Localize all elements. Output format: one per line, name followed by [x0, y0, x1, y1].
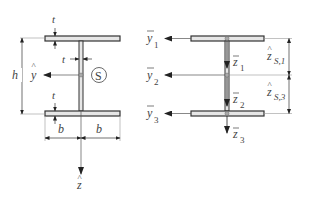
h-dimension: h [12, 38, 45, 114]
y2-axis: y 2 [146, 68, 225, 87]
b-dimensions: b b [45, 116, 120, 141]
z-hat-accent: ^ [78, 173, 83, 183]
z3-label: z [232, 127, 238, 141]
zs1-subscript: S,1 [274, 56, 285, 66]
z2-subscript: 2 [240, 100, 245, 110]
y-hat-axis: y ^ [30, 61, 79, 82]
y2-subscript: 2 [154, 77, 159, 87]
y3-subscript: 3 [154, 115, 159, 125]
t-web-dimension: t [62, 53, 92, 65]
y1-label: y [146, 31, 153, 45]
y1-subscript: 1 [154, 40, 159, 50]
zs-dimensions: z ^ S,1 z ^ S,3 [229, 39, 292, 114]
t-top-dimension: t [52, 13, 56, 49]
bottom-flange [45, 111, 120, 116]
shear-center-marker: S [92, 68, 107, 83]
i-beam-diagram: t t t h y ^ S b b [0, 0, 309, 201]
y3-axis: y 3 [146, 106, 191, 125]
t-top-label: t [52, 13, 56, 25]
left-i-section [45, 36, 120, 116]
zs1-accent: ^ [268, 44, 273, 54]
right-i-section [191, 36, 264, 116]
y1-axis: y 1 [146, 31, 191, 50]
t-bottom-dimension: t [52, 89, 56, 124]
z3-subscript: 3 [240, 135, 245, 145]
zs3-accent: ^ [268, 80, 273, 90]
shear-center-label: S [95, 69, 102, 83]
y2-label: y [146, 68, 153, 82]
y3-label: y [146, 106, 153, 120]
b-left-label: b [58, 122, 64, 136]
t-bottom-label: t [52, 89, 56, 101]
z1-subscript: 1 [240, 63, 245, 73]
z3-axis: z 3 [227, 116, 245, 145]
top-flange [45, 36, 120, 41]
h-label: h [12, 68, 18, 82]
z-hat-axis: z ^ [76, 111, 83, 192]
z1-axis: z 1 [227, 41, 245, 73]
z2-axis: z 2 [227, 77, 245, 110]
z2-label: z [232, 92, 238, 106]
t-web-label: t [62, 53, 66, 65]
b-right-label: b [96, 122, 102, 136]
z1-label: z [232, 55, 238, 69]
zs3-subscript: S,3 [274, 92, 286, 102]
